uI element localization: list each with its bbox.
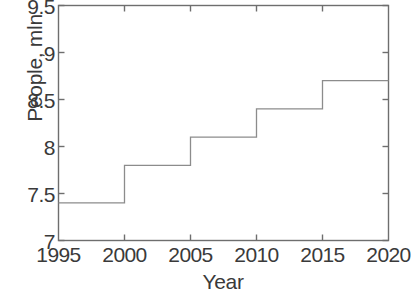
y-axis-title: People, mln — [23, 0, 47, 158]
x-axis-tick-label: 1995 — [22, 244, 96, 265]
x-axis-tick-label: 2005 — [154, 244, 228, 265]
y-axis-tick-marks — [59, 6, 389, 241]
axis-box — [59, 6, 389, 241]
x-axis-tick-label: 2020 — [352, 244, 415, 265]
x-axis-tick-label: 2000 — [88, 244, 162, 265]
x-axis-tick-label: 2015 — [286, 244, 360, 265]
x-axis-tick-label: 2010 — [220, 244, 294, 265]
step-line-series — [59, 81, 389, 203]
x-axis-tick-marks — [125, 6, 323, 241]
x-axis-tick-labels: 199520002005201020152020 — [0, 244, 408, 270]
x-axis-title: Year — [58, 270, 388, 294]
